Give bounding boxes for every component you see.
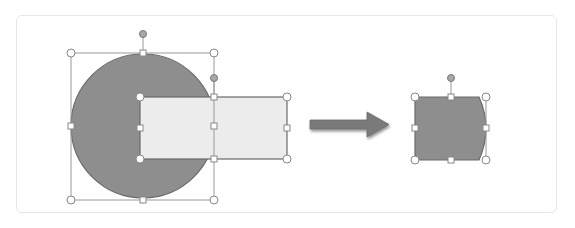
result-rotation-handle[interactable] — [448, 75, 455, 82]
rectangle-rotation-handle[interactable] — [211, 75, 218, 82]
circle-rotation-handle[interactable] — [140, 31, 147, 38]
right-arrow-icon — [310, 112, 389, 137]
result-shape[interactable] — [415, 97, 486, 160]
diagram-canvas — [0, 0, 575, 228]
